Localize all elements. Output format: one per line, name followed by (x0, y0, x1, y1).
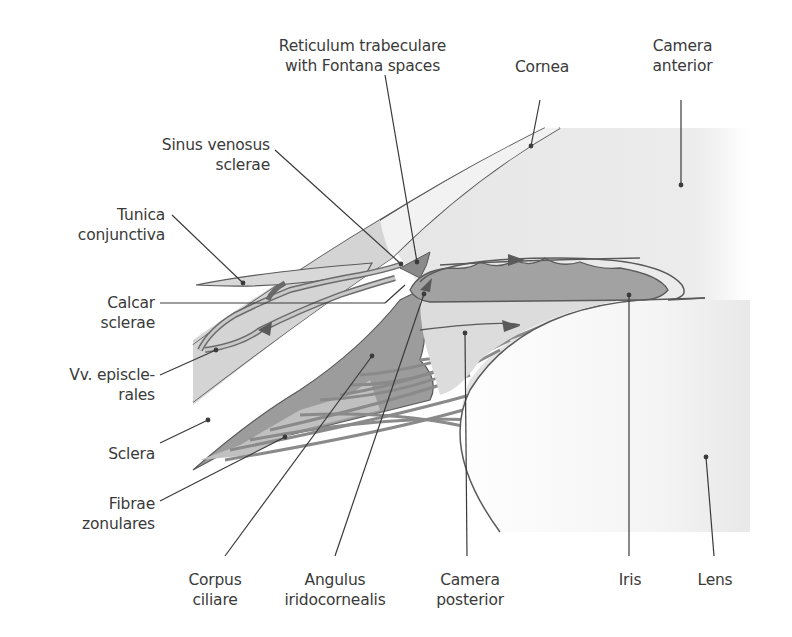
label-angulus-iridocornealis: Angulus iridocornealis (270, 570, 400, 610)
label-fibrae-zonulares: Fibrae zonulares (50, 494, 155, 534)
label-sclera: Sclera (60, 444, 155, 464)
label-sinus-venosus-sclerae: Sinus venosus sclerae (120, 135, 270, 175)
label-tunica-conjunctiva: Tunica conjunctiva (60, 205, 165, 245)
label-iris: Iris (610, 570, 650, 590)
label-lens: Lens (690, 570, 740, 590)
label-camera-posterior: Camera posterior (430, 570, 510, 610)
label-calcar-sclerae: Calcar sclerae (60, 293, 155, 333)
label-corpus-ciliare: Corpus ciliare (175, 570, 255, 610)
label-cornea: Cornea (515, 57, 569, 77)
label-camera-anterior: Camera anterior (640, 36, 725, 76)
label-vv-episclerales: Vv. episcle- rales (40, 365, 155, 405)
label-reticulum-trabeculare: Reticulum trabeculare with Fontana space… (255, 36, 470, 76)
